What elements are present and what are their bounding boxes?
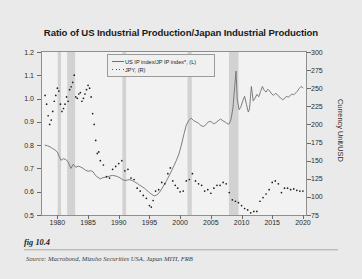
jpy-data-point <box>185 180 187 182</box>
recession-band <box>229 52 239 215</box>
y-axis-left-tick-label: 0.5 <box>8 212 34 219</box>
x-axis-tick-mark <box>272 215 273 219</box>
y-axis-left-tick-label: 1.2 <box>8 49 34 56</box>
jpy-data-point <box>250 212 252 214</box>
y-axis-right-tick-mark <box>307 106 311 107</box>
jpy-data-point <box>95 140 97 142</box>
x-axis-tick-label: 2010 <box>225 219 259 226</box>
jpy-data-point <box>198 183 200 185</box>
jpy-data-point <box>130 177 132 179</box>
y-axis-left-tick-mark <box>37 52 41 53</box>
jpy-data-point <box>164 183 166 185</box>
jpy-data-point <box>158 189 160 191</box>
y-axis-right-tick-label: 200 <box>311 121 339 128</box>
y-axis-left-tick-label: 1.1 <box>8 72 34 79</box>
jpy-data-point <box>247 209 249 211</box>
y-axis-right-tick-label: 275 <box>311 67 339 74</box>
x-axis-tick-mark <box>88 215 89 219</box>
x-axis-tick-mark <box>242 215 243 219</box>
jpy-data-point <box>127 169 129 171</box>
jpy-data-point <box>290 189 292 191</box>
jpy-data-point <box>152 200 154 202</box>
x-axis-tick-label: 2015 <box>255 219 289 226</box>
legend-item-jpy: JPY, (R) <box>111 66 211 73</box>
x-axis-tick-label: 1990 <box>102 219 136 226</box>
chart-legend: US IP index/JP IP index*, (L) JPY, (R) <box>107 54 215 77</box>
y-axis-left-title: Ratio <box>0 98 1 115</box>
jpy-data-point <box>103 164 105 166</box>
jpy-data-point <box>238 202 240 204</box>
jpy-data-point <box>146 197 148 199</box>
y-axis-left-tick-label: 0.8 <box>8 142 34 149</box>
jpy-data-point <box>133 179 135 181</box>
chart-title: Ratio of US Industrial Production/Japan … <box>0 27 362 38</box>
jpy-data-point <box>53 100 55 102</box>
y-axis-right-tick-label: 300 <box>311 49 339 56</box>
jpy-data-point <box>93 124 95 126</box>
y-axis-left-tick-mark <box>37 145 41 146</box>
jpy-data-point <box>86 89 88 91</box>
jpy-data-point <box>179 191 181 193</box>
jpy-data-point <box>84 93 86 95</box>
jpy-data-point <box>106 176 108 178</box>
jpy-data-point <box>201 184 203 186</box>
figure-container: Ratio of US Industrial Production/Japan … <box>0 0 362 279</box>
jpy-data-point <box>44 95 46 97</box>
x-axis-tick-mark <box>180 215 181 219</box>
y-axis-right-tick-mark <box>307 179 311 180</box>
jpy-data-point <box>87 84 89 86</box>
jpy-data-point <box>69 89 71 91</box>
jpy-data-point <box>195 180 197 182</box>
jpy-data-point <box>73 74 75 76</box>
jpy-data-point <box>118 163 120 165</box>
jpy-data-point <box>124 170 126 172</box>
jpy-data-point <box>81 100 83 102</box>
y-axis-right-tick-label: 250 <box>311 85 339 92</box>
jpy-data-point <box>96 153 98 155</box>
jpy-data-point <box>167 173 169 175</box>
legend-item-ratio: US IP index/JP IP index*, (L) <box>111 58 211 65</box>
ratio-line <box>45 71 303 196</box>
jpy-data-point <box>228 192 230 194</box>
y-axis-left-tick-label: 0.9 <box>8 118 34 125</box>
jpy-data-point <box>75 96 77 98</box>
jpy-data-point <box>210 192 212 194</box>
legend-dots-swatch <box>111 66 125 73</box>
recession-band <box>67 52 75 215</box>
jpy-data-point <box>244 208 246 210</box>
jpy-data-point <box>259 200 261 202</box>
jpy-data-point <box>136 187 138 189</box>
jpy-data-point <box>76 98 78 100</box>
jpy-data-point <box>213 187 215 189</box>
jpy-data-point <box>67 100 69 102</box>
jpy-data-point <box>52 111 54 113</box>
y-axis-left-tick-label: 0.7 <box>8 165 34 172</box>
jpy-data-point <box>49 124 51 126</box>
series-jpy-dots <box>44 74 304 213</box>
jpy-data-point <box>256 211 258 213</box>
y-axis-left-tick-mark <box>37 168 41 169</box>
x-axis-tick-label: 2000 <box>163 219 197 226</box>
y-axis-right-tick-label: 75 <box>311 212 339 219</box>
jpy-data-point <box>63 108 65 110</box>
jpy-data-point <box>98 151 100 153</box>
jpy-data-point <box>281 192 283 194</box>
jpy-data-point <box>99 160 101 162</box>
jpy-data-point <box>61 111 63 113</box>
jpy-data-point <box>222 182 224 184</box>
y-axis-right-tick-mark <box>307 143 311 144</box>
y-axis-left-tick-mark <box>37 75 41 76</box>
jpy-data-point <box>121 160 123 162</box>
jpy-data-point <box>78 93 80 95</box>
x-axis-tick-label: 1980 <box>40 219 74 226</box>
jpy-data-point <box>50 119 52 121</box>
jpy-data-point <box>287 187 289 189</box>
y-axis-right-tick-mark <box>307 215 311 216</box>
jpy-data-point <box>64 103 66 105</box>
jpy-data-point <box>172 180 174 182</box>
legend-label-ratio: US IP index/JP IP index*, (L) <box>125 59 196 65</box>
jpy-data-point <box>150 206 152 208</box>
jpy-data-point <box>204 190 206 192</box>
y-axis-right-tick-label: 175 <box>311 139 339 146</box>
jpy-data-point <box>296 190 298 192</box>
